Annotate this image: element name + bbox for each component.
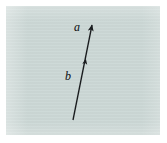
figure-canvas: a b bbox=[0, 0, 167, 143]
vector-arrow-graphic bbox=[0, 0, 167, 143]
vector-shaft bbox=[73, 25, 92, 120]
vector-head-label-a: a bbox=[74, 21, 80, 33]
vector-tail-label-b: b bbox=[65, 70, 71, 82]
